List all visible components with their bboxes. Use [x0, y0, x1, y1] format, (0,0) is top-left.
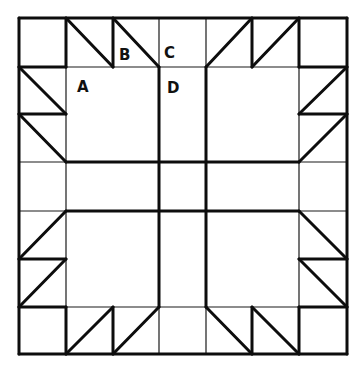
piece-edge	[299, 211, 347, 259]
label-c: C	[164, 44, 175, 62]
piece-edge	[19, 114, 66, 162]
quilt-block-diagram: A B C D	[0, 0, 364, 370]
grid-lines	[19, 18, 347, 354]
piece-edge	[252, 18, 299, 67]
piece-edge	[113, 307, 159, 354]
piece-edge	[19, 211, 66, 259]
piece-edge	[66, 18, 113, 67]
piece-edge	[299, 67, 347, 114]
piece-edge	[299, 259, 347, 307]
piece-edge	[19, 259, 66, 307]
piece-edge	[206, 18, 252, 67]
label-a: A	[77, 78, 89, 96]
piece-outlines	[19, 18, 347, 354]
piece-labels: A B C D	[77, 44, 179, 97]
piece-edge	[252, 307, 299, 354]
label-b: B	[119, 46, 130, 64]
label-d: D	[167, 79, 179, 97]
piece-edge	[19, 67, 66, 114]
piece-edge	[66, 307, 113, 354]
piece-edge	[299, 114, 347, 162]
piece-edge	[206, 307, 252, 354]
